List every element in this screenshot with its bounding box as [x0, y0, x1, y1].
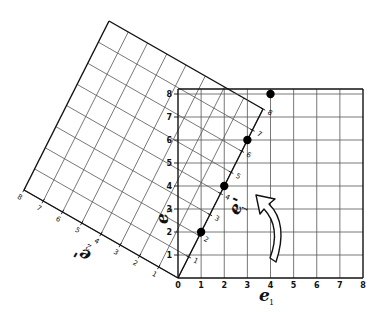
e2-prime-tick-label: 1	[151, 270, 159, 279]
rotated-grid-line	[88, 63, 242, 151]
counterclockwise-rotation-arrow-icon	[256, 195, 281, 262]
e2-prime-tick-label: 8	[16, 193, 24, 202]
standard-grid	[178, 89, 363, 278]
data-point	[220, 182, 228, 190]
basis-change-diagram: 1234567812345678 01234567812345678 e 1 e…	[0, 0, 381, 312]
rotated-grid-line	[109, 21, 263, 109]
x-tick-label: 0	[175, 281, 181, 290]
e2-prime-tick-label: 6	[54, 215, 62, 224]
x-tick-label: 2	[221, 281, 227, 290]
e1-prime-tick-label: 8	[266, 108, 274, 117]
data-point	[243, 136, 251, 144]
x-tick-label: 5	[291, 281, 297, 290]
e2-prime-tick-label: 4	[93, 237, 101, 246]
e1-prime-tick-label: 6	[245, 151, 253, 160]
y-tick-label: 4	[166, 182, 172, 191]
y-tick-label: 2	[166, 228, 172, 237]
data-point	[197, 228, 205, 236]
e1-prime-tick-label: 2	[202, 235, 210, 244]
y-tick-label: 6	[166, 136, 172, 145]
y-tick-label: 7	[166, 113, 172, 122]
e2-prime-tick-label: 7	[35, 204, 43, 213]
y-tick-label: 5	[166, 159, 172, 168]
y-tick-label: 1	[166, 251, 172, 260]
e2-prime-tick-label: 5	[74, 226, 82, 235]
e1-prime-tick-label: 1	[192, 256, 200, 265]
e2-axis-subscript: 2	[165, 208, 174, 213]
e1-prime-tick-label: 7	[256, 130, 264, 139]
data-point	[266, 90, 274, 98]
x-tick-label: 3	[245, 281, 251, 290]
e1-axis-subscript: 1	[269, 298, 274, 307]
x-tick-label: 7	[337, 281, 343, 290]
e1-prime-tick-label: 3	[213, 214, 221, 223]
rotated-grid-line	[77, 84, 231, 172]
x-tick-label: 1	[198, 281, 204, 290]
x-tick-label: 8	[360, 281, 366, 290]
rotated-grid-line	[63, 43, 148, 212]
rotated-grid-line	[43, 32, 128, 201]
y-tick-label: 8	[166, 90, 172, 99]
e2-axis-label: e	[152, 213, 172, 224]
x-tick-label: 6	[314, 281, 320, 290]
rotated-grid-line	[82, 54, 167, 223]
rotated-axes: 1234567812345678	[16, 108, 274, 279]
e1-prime-tick-label: 5	[234, 172, 242, 181]
e2-prime-tick-label: 2	[131, 259, 139, 268]
rotated-grid-line	[24, 21, 109, 190]
rotated-grid	[24, 21, 263, 278]
e2-prime-tick-label: 3	[112, 248, 120, 257]
